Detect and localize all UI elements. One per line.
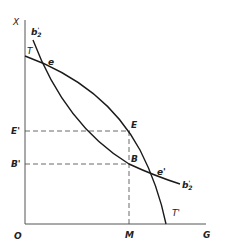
x-axis-label: G xyxy=(203,230,210,240)
t-prime-label: T' xyxy=(172,208,180,218)
point-e-label: e xyxy=(48,57,54,67)
point-e-prime-label: e' xyxy=(157,167,166,177)
e-prime-axis-label: E' xyxy=(11,126,20,136)
m-axis-label: M xyxy=(125,230,134,240)
b2-prime-top-label: b'2 xyxy=(31,26,41,38)
b-prime-axis-label: B' xyxy=(11,159,21,169)
indifference-curve xyxy=(33,40,180,184)
t-label: T xyxy=(27,46,34,56)
diagram-canvas: X G O T T' b'2 b'2 e E B e' E' B' M xyxy=(0,0,225,252)
transformation-curve xyxy=(25,56,166,224)
y-axis-label: X xyxy=(12,17,20,27)
point-B-label: B xyxy=(131,154,138,164)
b2-prime-right-label: b'2 xyxy=(182,179,192,191)
origin-label: O xyxy=(14,231,22,241)
point-E-label: E xyxy=(131,120,138,130)
